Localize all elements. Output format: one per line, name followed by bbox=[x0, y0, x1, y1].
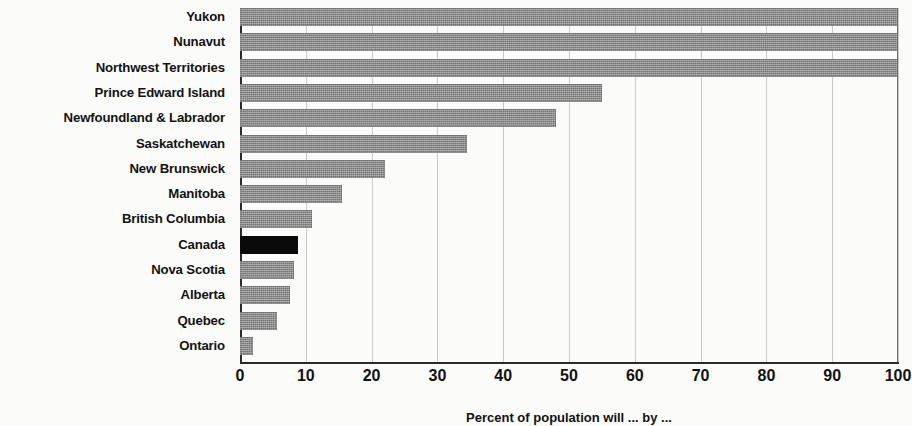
x-tick-label: 30 bbox=[428, 366, 446, 386]
bar bbox=[240, 286, 290, 304]
bar bbox=[240, 312, 277, 330]
bar bbox=[240, 59, 898, 77]
bar bbox=[240, 210, 312, 228]
x-tick-label: 80 bbox=[757, 366, 775, 386]
bar bbox=[240, 135, 467, 153]
plot-area bbox=[240, 8, 898, 362]
x-tick-label: 70 bbox=[692, 366, 710, 386]
bar bbox=[240, 261, 294, 279]
bar-series bbox=[240, 8, 898, 362]
category-label: Saskatchewan bbox=[0, 135, 225, 153]
bar bbox=[240, 109, 556, 127]
category-label: Newfoundland & Labrador bbox=[0, 109, 225, 127]
x-axis-tick-labels: 0102030405060708090100 bbox=[240, 366, 898, 392]
category-label: Prince Edward Island bbox=[0, 84, 225, 102]
category-axis-labels: YukonNunavutNorthwest TerritoriesPrince … bbox=[0, 8, 225, 362]
bar bbox=[240, 84, 602, 102]
plot-right-border bbox=[897, 8, 898, 362]
category-label: Manitoba bbox=[0, 185, 225, 203]
category-label: Nunavut bbox=[0, 33, 225, 51]
bar bbox=[240, 33, 898, 51]
x-tick-label: 90 bbox=[823, 366, 841, 386]
category-label: Nova Scotia bbox=[0, 261, 225, 279]
x-tick-label: 40 bbox=[494, 366, 512, 386]
bar bbox=[240, 236, 298, 254]
x-tick-label: 50 bbox=[560, 366, 578, 386]
category-label: Alberta bbox=[0, 286, 225, 304]
category-label: Northwest Territories bbox=[0, 59, 225, 77]
x-tick-label: 100 bbox=[885, 366, 912, 386]
x-tick-label: 10 bbox=[297, 366, 315, 386]
category-label: Yukon bbox=[0, 8, 225, 26]
bar bbox=[240, 337, 253, 355]
category-label: Quebec bbox=[0, 312, 225, 330]
x-tick-label: 0 bbox=[236, 366, 245, 386]
x-tick-label: 60 bbox=[626, 366, 644, 386]
category-label: New Brunswick bbox=[0, 160, 225, 178]
category-label: British Columbia bbox=[0, 210, 225, 228]
bar-chart: YukonNunavutNorthwest TerritoriesPrince … bbox=[0, 0, 912, 426]
bar bbox=[240, 185, 342, 203]
x-axis-line bbox=[240, 362, 899, 364]
bar bbox=[240, 8, 898, 26]
category-label: Canada bbox=[0, 236, 225, 254]
category-label: Ontario bbox=[0, 337, 225, 355]
bar bbox=[240, 160, 385, 178]
x-axis-title: Percent of population will ... by ... bbox=[240, 409, 898, 426]
gridline-100 bbox=[898, 8, 899, 362]
x-tick-label: 20 bbox=[363, 366, 381, 386]
